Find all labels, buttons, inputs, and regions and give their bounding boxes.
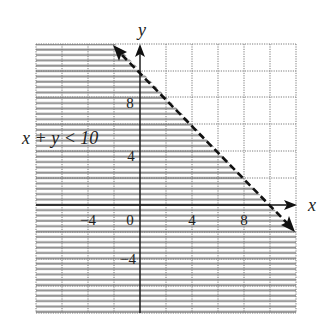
x-axis-label: x <box>307 195 316 215</box>
inequality-annotation: x + y < 10 <box>21 128 98 148</box>
tick-label-x-4: 4 <box>188 212 196 228</box>
inequality-graph: y x −4 0 4 8 8 4 −4 x + y < 10 <box>0 0 333 333</box>
tick-label-x-0: 0 <box>126 212 134 228</box>
tick-label-y--4: −4 <box>120 251 136 267</box>
y-axis-label: y <box>136 20 146 40</box>
tick-label-y-8: 8 <box>126 95 134 111</box>
tick-label-x--4: −4 <box>80 212 96 228</box>
tick-label-x-8: 8 <box>240 212 248 228</box>
tick-label-y-4: 4 <box>127 148 135 164</box>
inequality-text: x + y < 10 <box>21 128 98 148</box>
